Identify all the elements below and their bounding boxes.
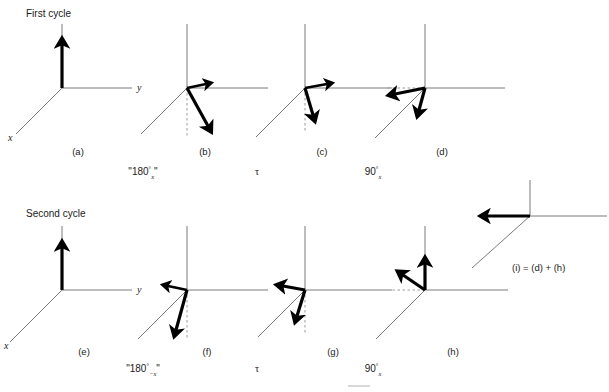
panel-a: y x (a) — [7, 24, 142, 157]
panel-a-x-axis — [16, 88, 62, 134]
pulse-label-90-x: 90°x — [365, 166, 382, 180]
pulse-label-180-x: "180°x" — [128, 166, 158, 180]
pulse-label-tau-2: τ — [255, 363, 259, 374]
panel-g-label: (g) — [327, 346, 339, 357]
panel-f: (f) — [138, 226, 268, 357]
panel-c-vector-1 — [305, 84, 327, 88]
panel-e-label: (e) — [78, 346, 90, 357]
panel-h-vector-2 — [403, 275, 425, 290]
first-cycle-label: First cycle — [26, 8, 71, 19]
panel-e-y-axis-label: y — [136, 284, 142, 295]
panel-b-vector-1 — [187, 84, 206, 88]
panel-e-x-axis — [10, 290, 62, 342]
caption-remnant — [348, 385, 370, 387]
panel-c-vector-2 — [305, 88, 313, 115]
panel-a-y-axis-label: y — [136, 82, 142, 93]
pulse-label-tau-1: τ — [255, 166, 259, 177]
panel-c-label: (c) — [316, 146, 327, 157]
panel-i-sum-label: (i) = (d) + (h) — [512, 262, 565, 273]
panel-a-label: (a) — [72, 146, 84, 157]
panel-h-x-axis — [376, 290, 425, 339]
vector-diagram-svg: y x (a) (b) (c) — [0, 0, 609, 392]
panel-h: (h) — [376, 226, 508, 357]
panel-e-x-axis-label: x — [3, 340, 9, 351]
pulse-label-90-x-2: 90°x — [365, 363, 382, 377]
panel-b-x-axis — [141, 88, 187, 134]
pulse-label-180-minus-x: "180°−x" — [126, 363, 160, 377]
panel-i-x-axis — [472, 216, 530, 268]
panel-g-vector-1 — [283, 286, 305, 290]
panel-b-label: (b) — [199, 146, 211, 157]
panel-f-label: (f) — [203, 346, 212, 357]
pulse-labels-row-1: "180°x" τ 90°x — [128, 166, 381, 180]
panel-c: (c) — [256, 24, 392, 157]
panel-e: y x (e) — [3, 226, 142, 357]
panel-b-vector-2 — [187, 88, 208, 126]
panel-h-label: (h) — [447, 346, 459, 357]
panel-b: (b) — [141, 24, 268, 157]
panel-a-x-axis-label: x — [7, 132, 13, 143]
panel-d-x-axis — [375, 88, 425, 138]
panel-g: (g) — [258, 226, 392, 357]
panel-i: (i) = (d) + (h) — [472, 180, 607, 273]
panel-d: (d) — [375, 24, 505, 157]
panel-d-label: (d) — [436, 146, 448, 157]
panel-f-vector-1 — [168, 286, 187, 290]
figure-root: y x (a) (b) (c) — [0, 0, 609, 392]
pulse-labels-row-2: "180°−x" τ 90°x — [126, 363, 381, 377]
second-cycle-label: Second cycle — [26, 208, 86, 219]
panel-c-x-axis — [256, 88, 305, 137]
